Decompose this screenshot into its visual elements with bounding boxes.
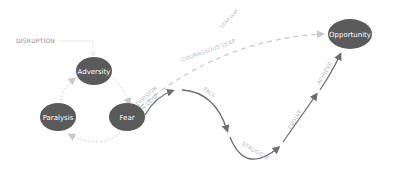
- evolve-path: [283, 95, 316, 142]
- disruption-connector: [60, 41, 96, 56]
- cycle-arrow-paralysis-to-adversity: [60, 79, 74, 105]
- leap-gap-label: LEAP GAP: [219, 9, 239, 29]
- node-opportunity-label: Opportunity: [329, 31, 371, 39]
- cycle-arrow-adversity-to-fear: [113, 78, 129, 103]
- node-paralysis-label: Paralysis: [43, 114, 74, 122]
- cycle-arrow-fear-to-paralysis: [70, 133, 120, 142]
- node-fear: Fear: [109, 103, 145, 131]
- node-adversity-label: Adversity: [78, 68, 111, 76]
- diagram-canvas: DISRUPTION COURAGEOUS LEAP LEAP GAP DIVI…: [0, 0, 396, 179]
- node-opportunity: Opportunity: [328, 19, 372, 49]
- node-fear-label: Fear: [119, 114, 134, 122]
- evolve-label: EVOLVE: [287, 108, 304, 131]
- disruption-label: DISRUPTION: [16, 37, 55, 44]
- fall-path: [182, 90, 227, 130]
- node-paralysis: Paralysis: [40, 103, 76, 131]
- courageous-leap-label: COURAGEOUS LEAP: [180, 38, 236, 63]
- node-adversity: Adversity: [76, 57, 112, 85]
